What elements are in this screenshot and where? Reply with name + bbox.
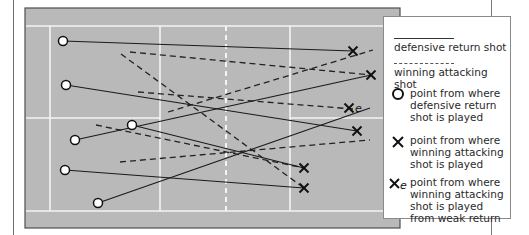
weak-marker-suffix: e (355, 102, 362, 115)
circle-marker-icon (391, 87, 405, 101)
return-point-circle-icon (62, 81, 71, 90)
legend-label: point from where winning attacking shot … (410, 134, 504, 170)
dashed-line-icon (394, 63, 454, 64)
legend-box: defensive return shot winning attacking … (383, 16, 511, 219)
cross-marker-icon (391, 135, 405, 149)
return-point-circle-icon (94, 199, 103, 208)
return-point-circle-icon (61, 166, 70, 175)
legend-label: defensive return shot (394, 41, 506, 53)
return-point-circle-icon (71, 136, 80, 145)
return-point-circle-icon (128, 121, 137, 130)
return-point-circle-icon (59, 37, 68, 46)
legend-label: point from where defensive return shot i… (410, 87, 500, 123)
solid-line-icon (394, 38, 454, 39)
cross-e-marker-icon: e (388, 177, 410, 191)
weak-marker-suffix: e (400, 179, 407, 191)
legend-label: point from where winning attacking shot … (410, 176, 504, 224)
court (25, 8, 400, 228)
